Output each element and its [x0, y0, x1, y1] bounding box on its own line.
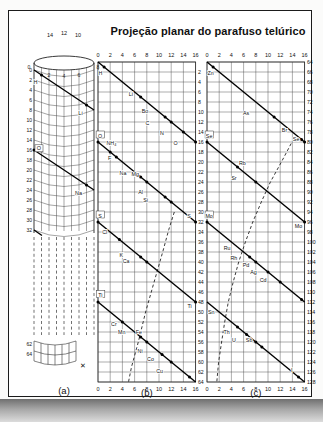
svg-text:Na: Na — [120, 170, 127, 176]
svg-text:2: 2 — [198, 69, 201, 75]
svg-text:88: 88 — [307, 179, 313, 185]
svg-text:84: 84 — [307, 159, 313, 165]
svg-text:92: 92 — [307, 199, 313, 205]
svg-text:10: 10 — [156, 386, 162, 392]
svg-text:Li: Li — [129, 91, 133, 97]
svg-text:22: 22 — [198, 169, 204, 175]
svg-text:40: 40 — [198, 259, 204, 265]
svg-text:Rb: Rb — [239, 160, 246, 166]
svg-text:2: 2 — [218, 52, 221, 58]
svg-text:6: 6 — [133, 52, 136, 58]
svg-text:56: 56 — [198, 339, 204, 345]
svg-text:14: 14 — [198, 129, 204, 135]
svg-text:2: 2 — [218, 386, 221, 392]
svg-text:28: 28 — [26, 207, 32, 213]
svg-text:26: 26 — [198, 189, 204, 195]
svg-text:0: 0 — [96, 386, 99, 392]
svg-text:122: 122 — [307, 349, 316, 355]
svg-text:36: 36 — [198, 239, 204, 245]
svg-text:12: 12 — [168, 52, 174, 58]
svg-text:80: 80 — [307, 139, 313, 145]
svg-text:26: 26 — [26, 197, 32, 203]
svg-text:Sb: Sb — [246, 337, 253, 343]
svg-text:4: 4 — [230, 52, 233, 58]
svg-text:28: 28 — [198, 199, 204, 205]
svg-text:12: 12 — [277, 52, 283, 58]
svg-text:12: 12 — [198, 119, 204, 125]
svg-text:10: 10 — [156, 52, 162, 58]
svg-text:4: 4 — [29, 87, 32, 93]
svg-text:20: 20 — [26, 167, 32, 173]
svg-text:Se: Se — [293, 136, 300, 142]
svg-text:Pd: Pd — [243, 262, 250, 268]
svg-text:Bo: Bo — [142, 108, 149, 114]
svg-text:120: 120 — [307, 339, 316, 345]
svg-text:As: As — [243, 110, 250, 116]
svg-text:58: 58 — [198, 349, 204, 355]
svg-text:74: 74 — [307, 109, 313, 115]
svg-text:6: 6 — [29, 97, 32, 103]
svg-text:108: 108 — [307, 279, 316, 285]
svg-text:32: 32 — [198, 219, 204, 225]
svg-text:6: 6 — [198, 89, 201, 95]
svg-text:14: 14 — [289, 386, 295, 392]
svg-text:22: 22 — [26, 177, 32, 183]
svg-text:N: N — [160, 130, 164, 136]
svg-text:104: 104 — [307, 259, 316, 265]
svg-text:12: 12 — [61, 30, 67, 36]
svg-text:128: 128 — [307, 379, 316, 385]
svg-text:64: 64 — [198, 379, 204, 385]
svg-text:66: 66 — [307, 69, 313, 75]
svg-text:16: 16 — [193, 52, 199, 58]
svg-text:Co: Co — [147, 356, 154, 362]
svg-text:16: 16 — [302, 52, 308, 58]
svg-text:70: 70 — [307, 89, 313, 95]
svg-text:14: 14 — [180, 386, 186, 392]
svg-text:0: 0 — [96, 52, 99, 58]
svg-text:6: 6 — [133, 386, 136, 392]
svg-text:Mg: Mg — [132, 171, 139, 177]
svg-text:H: H — [34, 79, 38, 85]
svg-text:124: 124 — [307, 359, 316, 365]
svg-text:Cl: Cl — [102, 229, 107, 235]
svg-text:12: 12 — [277, 386, 283, 392]
svg-text:(b): (b) — [141, 387, 153, 398]
svg-text:O: O — [173, 140, 177, 146]
svg-text:10: 10 — [26, 117, 32, 123]
svg-text:16: 16 — [193, 386, 199, 392]
svg-text:50: 50 — [198, 309, 204, 315]
svg-text:116: 116 — [307, 319, 315, 325]
svg-text:0: 0 — [205, 386, 208, 392]
svg-text:8: 8 — [198, 99, 201, 105]
svg-text:100: 100 — [307, 239, 316, 245]
svg-text:4: 4 — [121, 52, 124, 58]
svg-text:10: 10 — [265, 386, 271, 392]
svg-text:10: 10 — [265, 52, 271, 58]
svg-text:Ti: Ti — [187, 303, 191, 309]
svg-text:76: 76 — [307, 119, 313, 125]
svg-text:Cd: Cd — [260, 277, 267, 283]
svg-text:O: O — [98, 133, 102, 139]
svg-text:68: 68 — [307, 79, 313, 85]
svg-text:Mo: Mo — [295, 223, 302, 229]
svg-text:Zn: Zn — [208, 70, 214, 76]
svg-text:14: 14 — [47, 32, 53, 38]
svg-text:30: 30 — [26, 217, 32, 223]
svg-text:Rh: Rh — [230, 255, 237, 261]
svg-text:14: 14 — [26, 137, 32, 143]
svg-text:64: 64 — [307, 59, 313, 65]
svg-text:Fe: Fe — [136, 329, 142, 335]
svg-text:2: 2 — [109, 52, 112, 58]
svg-text:44: 44 — [198, 279, 204, 285]
projection-grid-64-128: 0246810121416024681012141664666870727476… — [205, 46, 319, 398]
svg-text:U: U — [232, 337, 236, 343]
svg-text:4: 4 — [198, 79, 201, 85]
svg-text:12: 12 — [168, 386, 174, 392]
svg-text:Cu: Cu — [156, 368, 163, 374]
svg-text:S: S — [187, 213, 191, 219]
svg-text:14: 14 — [180, 52, 186, 58]
svg-text:10: 10 — [75, 32, 81, 38]
svg-text:82: 82 — [307, 149, 313, 155]
svg-text:24: 24 — [26, 187, 32, 193]
svg-text:106: 106 — [307, 269, 316, 275]
